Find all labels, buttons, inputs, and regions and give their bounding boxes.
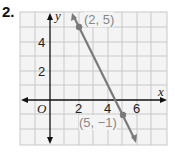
x-tick-6: 6 [133, 101, 140, 116]
x-tick-4: 4 [104, 101, 111, 116]
x-axis-label: x [158, 84, 164, 100]
x-tick-2: 2 [75, 101, 82, 116]
y-axis-label: y [55, 8, 61, 24]
point-5-neg1 [120, 112, 126, 118]
point-label-2-5: (2, 5) [84, 12, 114, 27]
origin-label: O [37, 101, 46, 117]
y-tick-4: 4 [38, 35, 45, 50]
point-2-5 [76, 24, 82, 30]
y-tick-2: 2 [38, 64, 45, 79]
point-label-5-neg1: (5, −1) [79, 115, 117, 130]
